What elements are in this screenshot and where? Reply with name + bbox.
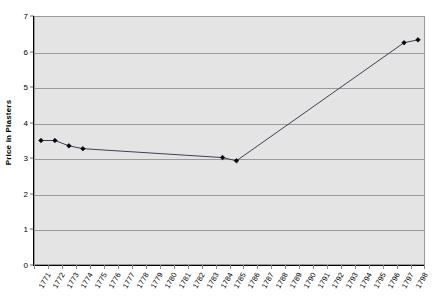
x-tick-mark xyxy=(146,265,147,269)
y-tick-label: 2 xyxy=(24,189,28,198)
x-tick-label: 1796 xyxy=(386,271,402,290)
x-tick-label: 1786 xyxy=(246,271,262,290)
x-tick-mark xyxy=(341,265,342,269)
y-tick-label: 3 xyxy=(24,154,28,163)
x-tick-mark xyxy=(411,265,412,269)
x-tick-label: 1780 xyxy=(162,271,178,290)
x-tick-mark xyxy=(118,265,119,269)
x-tick-mark xyxy=(132,265,133,269)
x-tick-label: 1783 xyxy=(204,271,220,290)
series-layer xyxy=(34,16,425,265)
x-tick-label: 1774 xyxy=(79,271,95,290)
x-tick-mark xyxy=(76,265,77,269)
x-tick-mark xyxy=(90,265,91,269)
x-tick-label: 1775 xyxy=(92,271,108,290)
x-tick-mark xyxy=(34,265,35,269)
x-tick-mark xyxy=(383,265,384,269)
x-tick-label: 1784 xyxy=(218,271,234,290)
y-tick-label: 5 xyxy=(24,83,28,92)
y-tick-label: 0 xyxy=(24,261,28,270)
x-tick-label: 1794 xyxy=(358,271,374,290)
x-tick-label: 1782 xyxy=(190,271,206,290)
y-tick-label: 6 xyxy=(24,47,28,56)
x-tick-mark xyxy=(48,265,49,269)
series-line xyxy=(41,40,418,161)
data-point-marker xyxy=(39,138,44,143)
x-tick-label: 1773 xyxy=(65,271,81,290)
y-tick-label: 4 xyxy=(24,118,28,127)
x-tick-mark xyxy=(285,265,286,269)
data-point-marker xyxy=(53,138,58,143)
x-tick-mark xyxy=(397,265,398,269)
x-tick-label: 1791 xyxy=(316,271,332,290)
x-tick-label: 1781 xyxy=(176,271,192,290)
x-tick-mark xyxy=(355,265,356,269)
x-tick-label: 1792 xyxy=(330,271,346,290)
line-chart: Price in Piasters 01234567 1771177217731… xyxy=(0,0,438,305)
y-tick-label: 1 xyxy=(24,225,28,234)
x-tick-mark xyxy=(424,265,425,269)
x-tick-mark xyxy=(369,265,370,269)
x-tick-label: 1788 xyxy=(274,271,290,290)
x-tick-label: 1771 xyxy=(37,271,53,290)
x-tick-mark xyxy=(202,265,203,269)
x-tick-mark xyxy=(230,265,231,269)
x-tick-mark xyxy=(216,265,217,269)
y-tick-label: 7 xyxy=(24,12,28,21)
x-tick-mark xyxy=(257,265,258,269)
data-point-marker xyxy=(67,144,72,149)
x-tick-label: 1789 xyxy=(288,271,304,290)
x-tick-label: 1772 xyxy=(51,271,67,290)
x-tick-mark xyxy=(271,265,272,269)
x-tick-label: 1779 xyxy=(148,271,164,290)
data-point-marker xyxy=(416,38,421,43)
x-tick-mark xyxy=(160,265,161,269)
x-tick-mark xyxy=(299,265,300,269)
y-axis-line xyxy=(33,16,34,266)
x-tick-label: 1793 xyxy=(344,271,360,290)
x-tick-label: 1795 xyxy=(372,271,388,290)
x-tick-mark xyxy=(327,265,328,269)
x-tick-mark xyxy=(313,265,314,269)
data-point-marker xyxy=(81,146,86,151)
x-tick-label: 1777 xyxy=(120,271,136,290)
x-tick-label: 1778 xyxy=(134,271,150,290)
x-tick-label: 1797 xyxy=(400,271,416,290)
x-tick-mark xyxy=(62,265,63,269)
x-tick-label: 1798 xyxy=(414,271,430,290)
x-tick-label: 1785 xyxy=(232,271,248,290)
plot-wrapper xyxy=(34,16,425,265)
x-tick-mark xyxy=(188,265,189,269)
data-point-marker xyxy=(220,155,225,160)
y-axis-ticks: 01234567 xyxy=(0,16,34,265)
x-tick-label: 1790 xyxy=(302,271,318,290)
x-tick-mark xyxy=(174,265,175,269)
x-tick-mark xyxy=(243,265,244,269)
x-tick-label: 1787 xyxy=(260,271,276,290)
x-tick-mark xyxy=(104,265,105,269)
x-axis-ticks: 1771177217731774177517761777177817791780… xyxy=(34,265,425,305)
x-tick-label: 1776 xyxy=(106,271,122,290)
